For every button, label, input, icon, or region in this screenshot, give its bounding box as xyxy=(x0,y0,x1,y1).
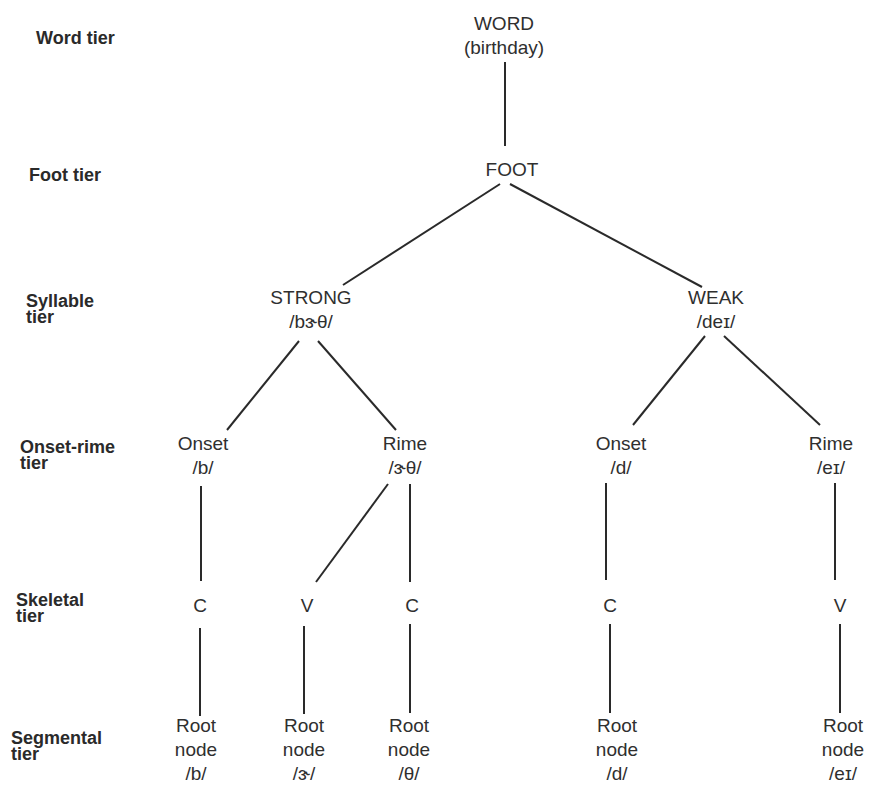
node-label: V xyxy=(301,594,314,618)
node-label: STRONG xyxy=(270,286,351,310)
node-root-4: Root node /d/ xyxy=(596,714,638,786)
node-sublabel: /b/ xyxy=(178,456,229,480)
node-root-1: Root node /b/ xyxy=(175,714,217,786)
node-label: Root xyxy=(596,714,638,738)
node-label: node xyxy=(822,738,864,762)
node-sublabel: /eɪ/ xyxy=(809,456,853,480)
node-label: Rime xyxy=(809,432,853,456)
node-label: C xyxy=(603,594,617,618)
node-sublabel: /b/ xyxy=(175,762,217,786)
edge-strong-rime xyxy=(318,341,396,430)
node-label: Root xyxy=(175,714,217,738)
node-word: WORD (birthday) xyxy=(464,12,544,60)
node-foot: FOOT xyxy=(486,158,539,182)
edge-weak-onset xyxy=(633,336,705,425)
edge-rime1-v xyxy=(316,484,388,582)
node-label: V xyxy=(834,594,847,618)
node-c-3: C xyxy=(603,594,617,618)
node-sublabel: (birthday) xyxy=(464,36,544,60)
node-rime-2: Rime /eɪ/ xyxy=(809,432,853,480)
node-label: Root xyxy=(388,714,430,738)
node-rime-1: Rime /ɝθ/ xyxy=(383,432,427,480)
node-sublabel: /d/ xyxy=(596,762,638,786)
node-label: WORD xyxy=(464,12,544,36)
node-sublabel: /eɪ/ xyxy=(822,762,864,786)
node-strong: STRONG /bɝθ/ xyxy=(270,286,351,334)
edge-strong-onset xyxy=(227,341,299,430)
node-c-2: C xyxy=(405,594,419,618)
node-c-1: C xyxy=(193,594,207,618)
edge-weak-rime xyxy=(724,336,820,425)
node-root-5: Root node /eɪ/ xyxy=(822,714,864,786)
node-sublabel: /d/ xyxy=(596,456,647,480)
node-label: Rime xyxy=(383,432,427,456)
edge-foot-strong xyxy=(343,184,500,285)
node-label: Root xyxy=(822,714,864,738)
node-sublabel: /ɝθ/ xyxy=(383,456,427,480)
tree-edges xyxy=(0,0,892,800)
edge-foot-weak xyxy=(510,184,702,287)
node-label: node xyxy=(283,738,325,762)
node-label: node xyxy=(175,738,217,762)
node-root-2: Root node /ɝ/ xyxy=(283,714,325,786)
node-label: C xyxy=(193,594,207,618)
node-label: node xyxy=(388,738,430,762)
node-label: Root xyxy=(283,714,325,738)
node-label: Onset xyxy=(596,432,647,456)
node-onset-1: Onset /b/ xyxy=(178,432,229,480)
node-root-3: Root node /θ/ xyxy=(388,714,430,786)
node-sublabel: /deɪ/ xyxy=(688,310,744,334)
node-label: C xyxy=(405,594,419,618)
node-v-1: V xyxy=(301,594,314,618)
node-sublabel: /θ/ xyxy=(388,762,430,786)
node-label: node xyxy=(596,738,638,762)
node-label: FOOT xyxy=(486,158,539,182)
node-sublabel: /bɝθ/ xyxy=(270,310,351,334)
node-label: Onset xyxy=(178,432,229,456)
node-label: WEAK xyxy=(688,286,744,310)
node-sublabel: /ɝ/ xyxy=(283,762,325,786)
node-onset-2: Onset /d/ xyxy=(596,432,647,480)
node-v-2: V xyxy=(834,594,847,618)
node-weak: WEAK /deɪ/ xyxy=(688,286,744,334)
